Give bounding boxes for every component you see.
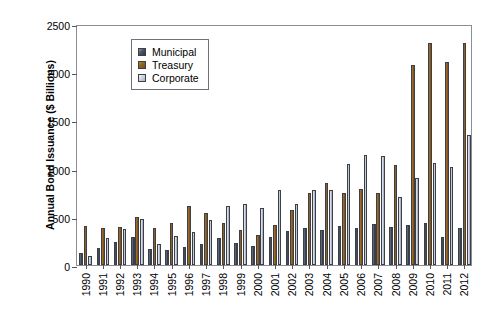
bar-treasury-1995 xyxy=(170,223,174,265)
bar-municipal-2012 xyxy=(458,228,462,265)
bar-treasury-2007 xyxy=(376,193,380,265)
x-tick-2008 xyxy=(396,265,397,269)
x-axis-label-1996: 1996 xyxy=(183,273,195,296)
bar-treasury-2011 xyxy=(445,62,449,265)
x-tick-2006 xyxy=(361,265,362,269)
x-tick-1992 xyxy=(120,265,121,269)
x-axis-label-2010: 2010 xyxy=(424,273,436,296)
bar-treasury-2004 xyxy=(325,183,329,265)
bar-corporate-1994 xyxy=(157,244,161,265)
x-tick-2004 xyxy=(327,265,328,269)
x-axis-label-2003: 2003 xyxy=(303,273,315,296)
x-axis-label-1998: 1998 xyxy=(217,273,229,296)
bar-treasury-2003 xyxy=(308,193,312,265)
bar-treasury-1999 xyxy=(239,230,243,265)
legend-swatch-municipal-icon xyxy=(138,48,146,56)
x-tick-1991 xyxy=(103,265,104,269)
bar-treasury-2000 xyxy=(256,235,260,265)
legend: Municipal Treasury Corporate xyxy=(131,39,209,90)
x-axis-label-2009: 2009 xyxy=(407,273,419,296)
x-tick-1997 xyxy=(206,265,207,269)
bar-group xyxy=(335,26,352,265)
bar-corporate-2010 xyxy=(433,163,437,265)
legend-swatch-treasury-icon xyxy=(138,61,146,69)
bar-treasury-1990 xyxy=(84,226,88,265)
x-tick-1999 xyxy=(241,265,242,269)
bar-municipal-1993 xyxy=(131,237,135,265)
bar-corporate-1999 xyxy=(243,204,247,265)
bar-municipal-2008 xyxy=(389,227,393,265)
bar-group xyxy=(352,26,369,265)
y-tick-label: 0 xyxy=(64,261,70,273)
x-axis-label-1991: 1991 xyxy=(97,273,109,296)
bar-corporate-2008 xyxy=(398,197,402,265)
bar-treasury-2006 xyxy=(359,189,363,265)
bar-group xyxy=(370,26,387,265)
bar-treasury-1996 xyxy=(187,206,191,265)
bar-corporate-1990 xyxy=(88,256,92,265)
bar-group xyxy=(301,26,318,265)
y-axis-title: Annual Bond Issuance ($ Billions) xyxy=(44,15,56,275)
x-axis-label-2002: 2002 xyxy=(286,273,298,296)
bar-group xyxy=(421,26,438,265)
bond-issuance-bar-chart: Annual Bond Issuance ($ Billions) 050010… xyxy=(0,0,504,313)
bar-corporate-2011 xyxy=(450,167,454,265)
bar-municipal-1998 xyxy=(217,238,221,265)
bar-corporate-2012 xyxy=(467,135,471,265)
bar-corporate-1995 xyxy=(174,236,178,265)
bar-municipal-2002 xyxy=(286,231,290,266)
bar-municipal-2000 xyxy=(251,246,255,265)
bar-group xyxy=(94,26,111,265)
bar-municipal-2010 xyxy=(424,223,428,265)
x-tick-2007 xyxy=(378,265,379,269)
bar-corporate-2005 xyxy=(347,164,351,265)
x-axis-label-1990: 1990 xyxy=(80,273,92,296)
legend-item-treasury: Treasury xyxy=(138,58,199,71)
bar-corporate-1993 xyxy=(140,219,144,265)
bar-group xyxy=(232,26,249,265)
x-tick-2003 xyxy=(309,265,310,269)
x-axis-label-2008: 2008 xyxy=(390,273,402,296)
x-tick-1990 xyxy=(86,265,87,269)
bar-group xyxy=(215,26,232,265)
x-axis-label-1995: 1995 xyxy=(166,273,178,296)
x-tick-2002 xyxy=(292,265,293,269)
bar-corporate-2001 xyxy=(278,190,282,265)
bar-treasury-1998 xyxy=(222,223,226,265)
y-tick-label: 1500 xyxy=(47,116,70,128)
bar-municipal-2001 xyxy=(269,237,273,265)
y-tick-label: 500 xyxy=(52,213,70,225)
legend-item-corporate: Corporate xyxy=(138,71,199,84)
x-tick-2011 xyxy=(447,265,448,269)
bar-corporate-2000 xyxy=(260,208,264,265)
x-axis-label-2004: 2004 xyxy=(321,273,333,296)
bar-municipal-2007 xyxy=(372,224,376,265)
bar-municipal-1994 xyxy=(148,249,152,265)
bar-treasury-1992 xyxy=(118,227,122,265)
x-axis-label-1994: 1994 xyxy=(148,273,160,296)
y-tick-label: 2500 xyxy=(47,20,70,32)
y-tick-label: 1000 xyxy=(47,165,70,177)
legend-label-municipal: Municipal xyxy=(152,46,196,58)
x-tick-2000 xyxy=(258,265,259,269)
bar-municipal-2006 xyxy=(355,228,359,265)
bar-group xyxy=(318,26,335,265)
bar-corporate-2006 xyxy=(364,155,368,265)
x-tick-2012 xyxy=(464,265,465,269)
bar-corporate-2009 xyxy=(415,178,419,265)
bar-treasury-2009 xyxy=(411,65,415,265)
x-axis-label-1997: 1997 xyxy=(200,273,212,296)
bar-treasury-2005 xyxy=(342,193,346,265)
x-axis-label-2001: 2001 xyxy=(269,273,281,296)
x-axis-label-1992: 1992 xyxy=(114,273,126,296)
x-tick-2001 xyxy=(275,265,276,269)
bar-municipal-2011 xyxy=(441,237,445,265)
bar-treasury-2002 xyxy=(290,210,294,265)
bar-treasury-1993 xyxy=(135,217,139,265)
bar-municipal-2009 xyxy=(406,225,410,265)
bar-corporate-1991 xyxy=(106,238,110,265)
x-axis-label-2007: 2007 xyxy=(372,273,384,296)
bar-municipal-2003 xyxy=(303,228,307,265)
x-tick-1998 xyxy=(223,265,224,269)
bar-municipal-1995 xyxy=(165,250,169,265)
